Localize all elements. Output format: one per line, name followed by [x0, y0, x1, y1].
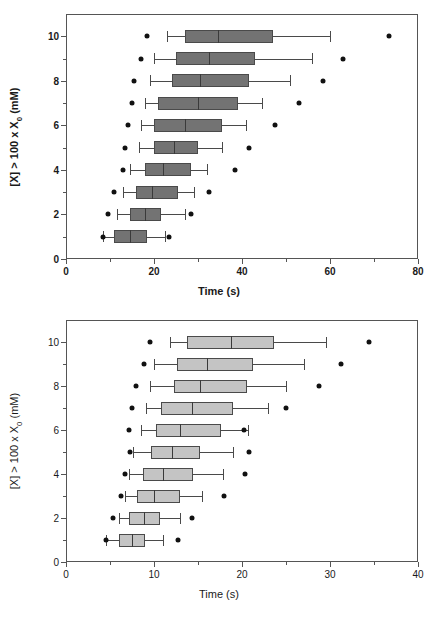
outlier-point	[122, 472, 127, 477]
y-axis-tick-label: 6	[38, 425, 59, 436]
whisker-high-cap	[286, 381, 287, 392]
box-iqr	[161, 402, 233, 415]
y-axis-title: [X] > 100 x X0 (mM)	[8, 393, 23, 489]
whisker-low-line	[170, 342, 188, 343]
median-line	[180, 424, 181, 437]
box-iqr	[114, 230, 147, 243]
whisker-high-cap	[202, 491, 203, 502]
whisker-high-cap	[330, 31, 331, 42]
outlier-point	[189, 516, 194, 521]
whisker-low-line	[145, 103, 158, 104]
whisker-low-cap	[150, 75, 151, 86]
whisker-low-line	[119, 518, 130, 519]
outlier-point	[246, 145, 251, 150]
box-iqr	[174, 380, 247, 393]
median-line	[132, 534, 133, 547]
y-axis-tick	[61, 430, 66, 431]
outlier-point	[233, 167, 238, 172]
outlier-point	[128, 450, 133, 455]
x-axis-tick-label: 40	[412, 569, 423, 580]
x-axis-tick	[154, 259, 155, 264]
boxplot-panel-top: 0204060800246810Time (s)[X] > 100 x X0 (…	[0, 0, 438, 312]
whisker-high-line	[180, 496, 201, 497]
median-line	[174, 141, 175, 154]
outlier-point	[338, 362, 343, 367]
y-axis-tick	[61, 214, 66, 215]
whisker-high-cap	[185, 209, 186, 220]
median-line	[154, 490, 155, 503]
whisker-high-cap	[223, 469, 224, 480]
outlier-point	[366, 340, 371, 345]
whisker-high-line	[147, 237, 165, 238]
whisker-high-line	[238, 103, 262, 104]
outlier-point	[321, 78, 326, 83]
y-axis-tick-label: 0	[38, 254, 59, 265]
x-axis-tick-label: 20	[148, 266, 159, 277]
whisker-high-line	[145, 540, 163, 541]
y-axis-tick-label: 2	[38, 209, 59, 220]
whisker-high-cap	[194, 187, 195, 198]
median-line	[163, 468, 164, 481]
whisker-high-line	[193, 474, 223, 475]
whisker-high-cap	[304, 359, 305, 370]
median-line	[200, 380, 201, 393]
whisker-low-line	[125, 496, 137, 497]
whisker-low-cap	[125, 491, 126, 502]
outlier-point	[284, 406, 289, 411]
box-iqr	[154, 141, 198, 154]
whisker-low-line	[139, 148, 154, 149]
outlier-point	[207, 190, 212, 195]
whisker-high-cap	[290, 75, 291, 86]
whisker-low-line	[130, 170, 145, 171]
whisker-low-cap	[146, 403, 147, 414]
y-axis-tick-label: 10	[38, 31, 59, 42]
y-axis-tick-label: 0	[38, 557, 59, 568]
whisker-low-line	[123, 192, 136, 193]
whisker-high-cap	[268, 403, 269, 414]
outlier-point	[110, 516, 115, 521]
whisker-low-cap	[130, 164, 131, 175]
whisker-low-line	[141, 125, 154, 126]
whisker-high-line	[253, 364, 304, 365]
y-axis-minor-tick	[63, 59, 66, 60]
y-axis-minor-tick	[63, 364, 66, 365]
whisker-low-cap	[145, 98, 146, 109]
whisker-low-line	[167, 36, 185, 37]
whisker-high-cap	[165, 231, 166, 242]
median-line	[218, 30, 219, 43]
y-axis-tick-label: 6	[38, 120, 59, 131]
x-axis-minor-tick	[198, 562, 199, 565]
x-axis-tick-label: 0	[63, 266, 69, 277]
x-axis-minor-tick	[110, 562, 111, 565]
whisker-high-line	[191, 170, 206, 171]
box-iqr	[137, 490, 180, 503]
box-iqr	[136, 186, 178, 199]
whisker-low-line	[154, 59, 176, 60]
whisker-low-line	[154, 364, 177, 365]
y-axis-minor-tick	[63, 237, 66, 238]
outlier-point	[175, 538, 180, 543]
x-axis-title: Time (s)	[0, 588, 438, 600]
whisker-low-line	[150, 81, 172, 82]
whisker-high-cap	[180, 513, 181, 524]
outlier-point	[125, 123, 130, 128]
whisker-high-cap	[207, 164, 208, 175]
outlier-point	[147, 340, 152, 345]
x-axis-minor-tick	[198, 259, 199, 262]
y-axis-tick	[61, 474, 66, 475]
median-line	[185, 119, 186, 132]
x-axis-tick-label: 40	[236, 266, 247, 277]
outlier-point	[138, 56, 143, 61]
whisker-low-cap	[154, 53, 155, 64]
boxplot-panel-bottom: 0102030400246810Time (s)[X] > 100 x X0 (…	[0, 312, 438, 625]
median-line	[172, 446, 173, 459]
outlier-point	[112, 190, 117, 195]
median-line	[192, 402, 193, 415]
median-line	[152, 186, 153, 199]
outlier-point	[341, 56, 346, 61]
median-line	[207, 358, 208, 371]
x-axis-title: Time (s)	[0, 285, 438, 297]
whisker-high-cap	[246, 120, 247, 131]
y-axis-tick	[61, 36, 66, 37]
x-axis-tick-label: 30	[324, 569, 335, 580]
